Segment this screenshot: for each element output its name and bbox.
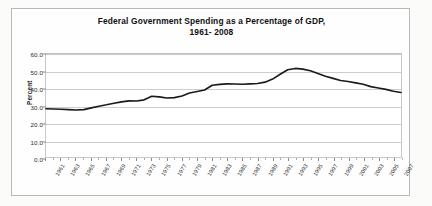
x-axis-tick-label: 1973 — [145, 163, 157, 177]
x-axis-tick-mark — [75, 158, 76, 161]
chart-subtitle: 1961- 2008 — [12, 27, 411, 38]
x-axis-tick-label: 1961 — [54, 163, 66, 177]
x-axis-tick-label: 1969 — [115, 163, 127, 177]
x-axis-tick-minor — [220, 158, 221, 160]
x-axis-tick-mark — [197, 158, 198, 161]
chart-title-block: Federal Government Spending as a Percent… — [12, 16, 411, 38]
x-axis-tick-label: 1979 — [191, 163, 203, 177]
x-axis-tick-label: 2001 — [358, 163, 370, 177]
x-axis-tick-mark — [91, 158, 92, 161]
x-axis-tick-minor — [280, 158, 281, 160]
x-axis-tick-minor — [250, 158, 251, 160]
x-axis-tick-mark — [288, 158, 289, 161]
x-axis-tick-minor — [326, 158, 327, 160]
x-axis-tick-label: 1997 — [327, 163, 339, 177]
x-axis-tick-label: 1975 — [160, 163, 172, 177]
chart-figure: Federal Government Spending as a Percent… — [0, 0, 432, 206]
y-axis-tick-label: 40.0 — [31, 86, 43, 93]
x-axis-tick-minor — [53, 158, 54, 160]
x-axis-tick-mark — [167, 158, 168, 161]
plot-area: 0.010.020.030.040.050.060.0 — [45, 53, 402, 158]
x-axis-tick-mark — [60, 158, 61, 161]
x-axis-tick-minor — [113, 158, 114, 160]
y-axis-tick-label: 20.0 — [31, 121, 43, 128]
x-axis-tick-mark — [364, 158, 365, 161]
y-axis-tick-label: 0.0 — [34, 156, 43, 163]
x-axis-tick-minor — [83, 158, 84, 160]
page-title: Federal Government Spending as a Percent… — [12, 16, 411, 27]
y-axis-tick-label: 30.0 — [31, 103, 43, 110]
x-axis-tick-minor — [98, 158, 99, 160]
x-axis-tick-mark — [45, 158, 46, 161]
x-axis-tick-label: 1995 — [312, 163, 324, 177]
x-axis-tick-label: 1971 — [130, 163, 142, 177]
x-axis-tick-mark — [349, 158, 350, 161]
x-axis-tick-label: 1977 — [175, 163, 187, 177]
x-axis-tick-minor — [311, 158, 312, 160]
x-axis-tick-minor — [68, 158, 69, 160]
plot-inner: 0.010.020.030.040.050.060.0 — [46, 54, 401, 157]
x-axis-tick-minor — [341, 158, 342, 160]
x-axis-tick-minor — [189, 158, 190, 160]
x-axis-tick-mark — [303, 158, 304, 161]
x-axis-tick-minor — [129, 158, 130, 160]
x-axis-tick-label: 1985 — [236, 163, 248, 177]
x-axis-tick-mark — [394, 158, 395, 161]
x-axis-tick-mark — [151, 158, 152, 161]
x-axis-tick-label: 1987 — [251, 163, 263, 177]
y-axis-tick-label: 50.0 — [31, 68, 43, 75]
x-axis: 1961196319651967196919711973197519771979… — [45, 158, 402, 206]
x-axis-tick-mark — [136, 158, 137, 161]
x-axis-tick-mark — [121, 158, 122, 161]
x-axis-tick-minor — [265, 158, 266, 160]
x-axis-tick-label: 1991 — [282, 163, 294, 177]
y-axis-tick-label: 10.0 — [31, 138, 43, 145]
x-axis-tick-mark — [212, 158, 213, 161]
x-axis-tick-label: 1967 — [100, 163, 112, 177]
series-line-gdp-spending — [46, 54, 401, 157]
x-axis-tick-minor — [235, 158, 236, 160]
x-axis-tick-label: 1999 — [343, 163, 355, 177]
x-axis-tick-mark — [227, 158, 228, 161]
x-axis-tick-minor — [402, 158, 403, 160]
x-axis-tick-minor — [144, 158, 145, 160]
x-axis-tick-label: 1981 — [206, 163, 218, 177]
x-axis-tick-label: 1965 — [84, 163, 96, 177]
y-axis-label: Percent — [26, 81, 33, 106]
x-axis-tick-label: 2007 — [403, 163, 415, 177]
x-axis-tick-label: 1989 — [267, 163, 279, 177]
x-axis-tick-label: 2003 — [373, 163, 385, 177]
x-axis-tick-minor — [387, 158, 388, 160]
x-axis-tick-mark — [182, 158, 183, 161]
x-axis-tick-label: 1983 — [221, 163, 233, 177]
x-axis-tick-label: 1993 — [297, 163, 309, 177]
x-axis-tick-mark — [318, 158, 319, 161]
x-axis-tick-mark — [379, 158, 380, 161]
chart-frame: Federal Government Spending as a Percent… — [11, 8, 410, 196]
x-axis-tick-minor — [356, 158, 357, 160]
y-axis-tick-label: 60.0 — [31, 51, 43, 58]
x-axis-tick-minor — [296, 158, 297, 160]
x-axis-tick-mark — [106, 158, 107, 161]
x-axis-tick-minor — [159, 158, 160, 160]
x-axis-tick-mark — [242, 158, 243, 161]
x-axis-tick-mark — [258, 158, 259, 161]
x-axis-tick-label: 2005 — [388, 163, 400, 177]
x-axis-tick-mark — [334, 158, 335, 161]
x-axis-tick-mark — [273, 158, 274, 161]
x-axis-tick-label: 1963 — [69, 163, 81, 177]
x-axis-tick-minor — [372, 158, 373, 160]
x-axis-tick-minor — [205, 158, 206, 160]
x-axis-tick-minor — [174, 158, 175, 160]
